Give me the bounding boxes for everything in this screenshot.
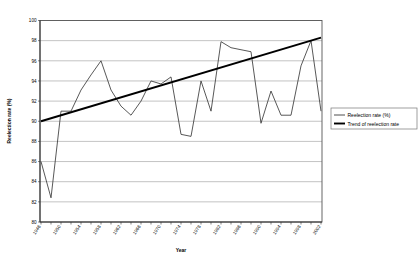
y-tick-label: 82 <box>31 200 37 205</box>
x-tick-label: 1958 <box>92 224 102 236</box>
y-tick-label: 90 <box>31 119 37 124</box>
x-tick-label: 1982 <box>212 224 222 236</box>
x-tick-label: 1962 <box>112 224 122 236</box>
y-tick-label: 94 <box>31 79 37 84</box>
x-tick-label: 1946 <box>32 224 42 236</box>
reelection-rate-line-chart: 80828486889092949698100 1946195019541958… <box>0 0 420 267</box>
y-tick-labels: 80828486889092949698100 <box>29 18 40 225</box>
x-tick-label: 1970 <box>152 224 162 236</box>
y-tick-label: 98 <box>31 38 37 43</box>
x-tick-label: 1974 <box>172 224 182 236</box>
svg-text:Year: Year <box>176 247 187 253</box>
y-axis-title: Reelection rate (%) <box>6 98 12 143</box>
x-tick-label: 1966 <box>132 224 142 236</box>
x-tick-labels: 1946195019541958196219661970197419781982… <box>32 224 322 236</box>
series-reelection-rate <box>41 41 321 198</box>
y-tick-label: 88 <box>31 139 37 144</box>
series-trend-line <box>41 38 321 122</box>
y-tick-label: 92 <box>31 99 37 104</box>
legend: Reelection rate (%) Trend of reelection … <box>331 108 417 129</box>
y-tick-label: 100 <box>29 18 37 23</box>
x-tick-label: 1954 <box>72 224 82 236</box>
y-tick-label: 84 <box>31 179 37 184</box>
svg-text:Trend of reelection rate: Trend of reelection rate <box>348 121 400 127</box>
svg-text:Reelection rate (%): Reelection rate (%) <box>348 112 391 118</box>
x-tick-label: 2002 <box>312 224 322 236</box>
x-tick-label: 1990 <box>252 224 262 236</box>
y-tick-label: 96 <box>31 59 37 64</box>
chart-container: 80828486889092949698100 1946195019541958… <box>0 0 420 267</box>
x-tick-label: 1950 <box>52 224 62 236</box>
x-tick-label: 1998 <box>292 224 302 236</box>
x-tick-label: 1978 <box>192 224 202 236</box>
svg-text:Reelection rate (%): Reelection rate (%) <box>6 98 12 143</box>
y-tick-label: 80 <box>31 220 37 225</box>
x-tick-label: 1986 <box>232 224 242 236</box>
x-tick-label: 1994 <box>272 224 282 236</box>
x-axis-title: Year <box>176 247 187 253</box>
y-tick-label: 86 <box>31 159 37 164</box>
